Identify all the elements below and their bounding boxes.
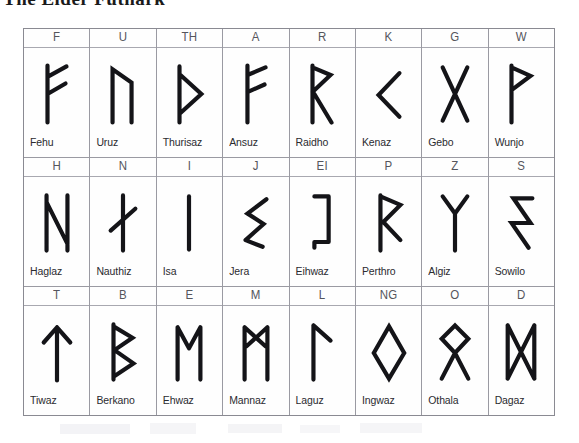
rune-letter-header: H bbox=[24, 158, 89, 177]
rune-letter-text: EI bbox=[316, 161, 327, 173]
rune-cell-fehu[interactable]: FFehu bbox=[24, 29, 90, 157]
page-title: The Elder Futhark bbox=[0, 0, 579, 9]
rune-cell-uruz[interactable]: UUruz bbox=[90, 29, 156, 157]
rune-cell-isa[interactable]: IIsa bbox=[157, 158, 223, 286]
rune-cell-ehwaz[interactable]: EEhwaz bbox=[157, 287, 223, 415]
rune-name-text: Tiwaz bbox=[30, 395, 57, 406]
rune-name-text: Uruz bbox=[96, 137, 118, 148]
rune-raidho-icon bbox=[290, 48, 355, 137]
rune-row: FFehuUUruzTHThurisazAAnsuzRRaidhoKKenazG… bbox=[24, 29, 554, 158]
rune-nauthiz-icon bbox=[90, 177, 155, 266]
rune-cell-perthro[interactable]: PPerthro bbox=[356, 158, 422, 286]
rune-othala-icon bbox=[422, 306, 487, 395]
rune-name-text: Sowilo bbox=[495, 266, 525, 277]
rune-cell-ansuz[interactable]: AAnsuz bbox=[223, 29, 289, 157]
rune-cell-jera[interactable]: JJera bbox=[223, 158, 289, 286]
rune-cell-kenaz[interactable]: KKenaz bbox=[356, 29, 422, 157]
rune-letter-header: S bbox=[489, 158, 554, 177]
rune-name-label: Thurisaz bbox=[157, 137, 222, 157]
rune-cell-dagaz[interactable]: DDagaz bbox=[489, 287, 554, 415]
rune-name-label: Raidho bbox=[290, 137, 355, 157]
rune-letter-text: J bbox=[253, 161, 259, 173]
rune-kenaz-icon bbox=[356, 48, 421, 137]
rune-name-text: Isa bbox=[163, 266, 177, 277]
rune-letter-text: W bbox=[516, 32, 527, 44]
rune-cell-eihwaz[interactable]: EIEihwaz bbox=[290, 158, 356, 286]
rune-letter-text: NG bbox=[380, 290, 398, 302]
rune-name-text: Laguz bbox=[296, 395, 324, 406]
rune-ansuz-icon bbox=[223, 48, 288, 137]
rune-cell-thurisaz[interactable]: THThurisaz bbox=[157, 29, 223, 157]
rune-name-label: Ehwaz bbox=[157, 395, 222, 415]
rune-name-label: Othala bbox=[422, 395, 487, 415]
rune-letter-text: R bbox=[318, 32, 327, 44]
rune-letter-text: U bbox=[119, 32, 128, 44]
rune-row: TTiwazBBerkanoEEhwazMMannazLLaguzNGIngwa… bbox=[24, 287, 554, 415]
rune-name-text: Ehwaz bbox=[163, 395, 194, 406]
scan-artifact bbox=[300, 425, 340, 433]
rune-letter-header: W bbox=[489, 29, 554, 48]
rune-letter-text: N bbox=[119, 161, 128, 173]
rune-cell-tiwaz[interactable]: TTiwaz bbox=[24, 287, 90, 415]
rune-name-label: Perthro bbox=[356, 266, 421, 286]
rune-isa-icon bbox=[157, 177, 222, 266]
rune-letter-text: TH bbox=[181, 32, 197, 44]
rune-letter-text: Z bbox=[451, 161, 458, 173]
rune-letter-header: F bbox=[24, 29, 89, 48]
scan-artifact bbox=[150, 423, 196, 434]
scan-artifact bbox=[228, 424, 282, 433]
rune-name-text: Haglaz bbox=[30, 266, 62, 277]
rune-name-label: Dagaz bbox=[489, 395, 554, 415]
rune-cell-gebo[interactable]: GGebo bbox=[422, 29, 488, 157]
rune-name-text: Dagaz bbox=[495, 395, 525, 406]
rune-cell-laguz[interactable]: LLaguz bbox=[290, 287, 356, 415]
rune-letter-header: Z bbox=[422, 158, 487, 177]
rune-name-label: Sowilo bbox=[489, 266, 554, 286]
rune-name-label: Tiwaz bbox=[24, 395, 89, 415]
rune-name-label: Mannaz bbox=[223, 395, 288, 415]
rune-cell-mannaz[interactable]: MMannaz bbox=[223, 287, 289, 415]
rune-cell-nauthiz[interactable]: NNauthiz bbox=[90, 158, 156, 286]
rune-algiz-icon bbox=[422, 177, 487, 266]
rune-letter-header: K bbox=[356, 29, 421, 48]
rune-name-text: Berkano bbox=[96, 395, 134, 406]
rune-letter-text: O bbox=[450, 290, 459, 302]
rune-fehu-icon bbox=[24, 48, 89, 137]
rune-letter-header: L bbox=[290, 287, 355, 306]
rune-dagaz-icon bbox=[489, 306, 554, 395]
rune-name-label: Algiz bbox=[422, 266, 487, 286]
rune-letter-text: E bbox=[185, 290, 193, 302]
rune-name-text: Mannaz bbox=[229, 395, 266, 406]
rune-alphabet-table: FFehuUUruzTHThurisazAAnsuzRRaidhoKKenazG… bbox=[23, 28, 555, 416]
rune-name-label: Ingwaz bbox=[356, 395, 421, 415]
rune-gebo-icon bbox=[422, 48, 487, 137]
rune-letter-header: R bbox=[290, 29, 355, 48]
rune-cell-raidho[interactable]: RRaidho bbox=[290, 29, 356, 157]
rune-letter-text: B bbox=[119, 290, 127, 302]
scan-artifact bbox=[60, 424, 130, 434]
rune-name-label: Berkano bbox=[90, 395, 155, 415]
rune-letter-header: I bbox=[157, 158, 222, 177]
rune-letter-text: S bbox=[517, 161, 525, 173]
rune-name-label: Laguz bbox=[290, 395, 355, 415]
rune-cell-wunjo[interactable]: WWunjo bbox=[489, 29, 554, 157]
rune-name-label: Kenaz bbox=[356, 137, 421, 157]
rune-name-label: Ansuz bbox=[223, 137, 288, 157]
rune-ingwaz-icon bbox=[356, 306, 421, 395]
rune-cell-othala[interactable]: OOthala bbox=[422, 287, 488, 415]
rune-letter-header: NG bbox=[356, 287, 421, 306]
rune-name-label: Fehu bbox=[24, 137, 89, 157]
rune-cell-ingwaz[interactable]: NGIngwaz bbox=[356, 287, 422, 415]
rune-letter-header: B bbox=[90, 287, 155, 306]
rune-letter-header: D bbox=[489, 287, 554, 306]
rune-cell-berkano[interactable]: BBerkano bbox=[90, 287, 156, 415]
rune-letter-text: A bbox=[252, 32, 260, 44]
rune-letter-text: F bbox=[53, 32, 60, 44]
rune-cell-sowilo[interactable]: SSowilo bbox=[489, 158, 554, 286]
rune-cell-haglaz[interactable]: HHaglaz bbox=[24, 158, 90, 286]
rune-cell-algiz[interactable]: ZAlgiz bbox=[422, 158, 488, 286]
rune-name-label: Eihwaz bbox=[290, 266, 355, 286]
rune-tiwaz-icon bbox=[24, 306, 89, 395]
rune-wunjo-icon bbox=[489, 48, 554, 137]
rune-name-text: Kenaz bbox=[362, 137, 391, 148]
